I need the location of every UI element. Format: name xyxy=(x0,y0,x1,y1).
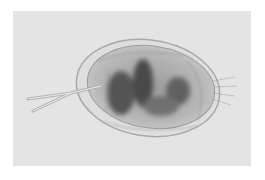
crustacean-illustration xyxy=(13,11,251,166)
micrograph-photo xyxy=(13,11,251,166)
